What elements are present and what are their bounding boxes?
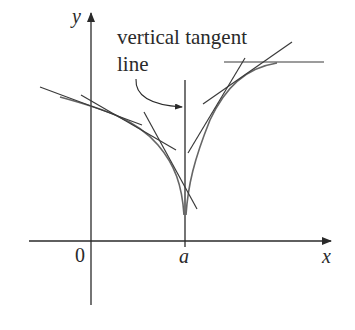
origin-label: 0 bbox=[75, 245, 85, 265]
diagram-canvas bbox=[0, 0, 355, 330]
curve-right-branch bbox=[186, 63, 277, 215]
curve-left-branch bbox=[60, 97, 184, 215]
tangent-line-left-2 bbox=[81, 95, 176, 150]
tangent-line-left-3 bbox=[144, 112, 197, 209]
annotation-line-1: vertical tangent bbox=[117, 27, 247, 48]
vertical-tangent-diagram: vertical tangent line y x 0 a bbox=[0, 0, 355, 330]
tick-label-a: a bbox=[179, 246, 189, 266]
annotation-line-2: line bbox=[117, 54, 149, 75]
x-axis-label: x bbox=[322, 246, 331, 266]
y-axis-label: y bbox=[72, 6, 81, 26]
tangent-line-right-2 bbox=[203, 42, 292, 104]
annotation-arrow bbox=[136, 79, 182, 107]
tangent-line-right-1 bbox=[188, 58, 245, 153]
